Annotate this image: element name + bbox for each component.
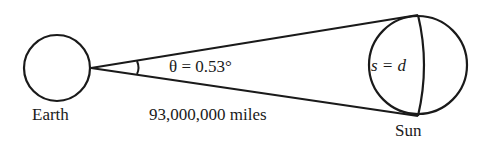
earth-label: Earth <box>32 106 69 123</box>
angle-arc <box>137 61 139 74</box>
angle-label: θ = 0.53° <box>169 58 232 75</box>
distance-label: 93,000,000 miles <box>149 106 267 123</box>
earth-sun-diagram: Earth θ = 0.53° 93,000,000 miles s = d S… <box>0 0 491 145</box>
sun-label: Sun <box>395 122 421 139</box>
earth-circle <box>24 35 90 101</box>
arc-label: s = d <box>371 57 406 74</box>
diameter-arc <box>418 15 424 116</box>
